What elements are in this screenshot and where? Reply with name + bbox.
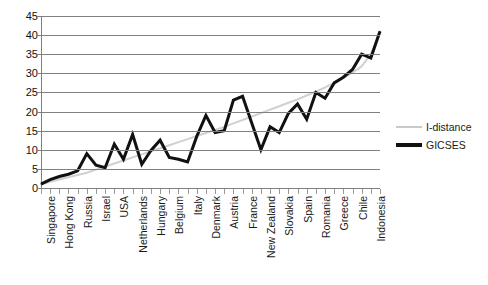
x-axis-tick-mark: [243, 189, 244, 194]
x-axis-tick-mark: [362, 189, 363, 194]
chart-legend: I-distance GICSES: [396, 118, 488, 154]
legend-label-i-distance: I-distance: [426, 121, 472, 133]
x-axis-tick-mark: [178, 189, 179, 194]
y-axis-tick-label: 5: [12, 164, 38, 174]
x-axis-tick-mark: [50, 189, 51, 194]
x-axis-category-label: Denmark: [210, 196, 222, 239]
x-axis-tick-mark: [279, 189, 280, 194]
gridline: [41, 73, 380, 74]
y-axis-tick-label: 40: [12, 30, 38, 40]
x-axis-category-label: Italy: [192, 196, 204, 215]
x-axis-tick-mark: [78, 189, 79, 194]
x-axis-category-label: France: [247, 196, 259, 229]
gridline: [41, 150, 380, 151]
y-axis-tick-mark: [37, 112, 41, 113]
gridline: [41, 92, 380, 93]
y-axis-tick-label: 0: [12, 183, 38, 193]
x-axis-tick-mark: [68, 189, 69, 194]
x-axis-tick-mark: [151, 189, 152, 194]
gridline: [41, 54, 380, 55]
x-axis-tick-mark: [41, 189, 42, 194]
y-axis-tick-label: 10: [12, 145, 38, 155]
y-axis-tick-mark: [37, 16, 41, 17]
x-axis-category-label: Chile: [357, 196, 369, 220]
y-axis-tick-mark: [37, 169, 41, 170]
y-axis-tick-mark: [37, 54, 41, 55]
x-axis-tick-mark: [206, 189, 207, 194]
gridline: [41, 112, 380, 113]
plot-area: [41, 16, 380, 188]
y-axis-tick-label: 30: [12, 68, 38, 78]
x-axis-category-label: Russia: [82, 196, 94, 228]
x-axis-tick-mark: [261, 189, 262, 194]
y-axis-labels: 051015202530354045: [8, 0, 38, 285]
gridline: [41, 35, 380, 36]
gridline: [41, 16, 380, 17]
legend-swatch-i-distance-icon: [396, 126, 422, 128]
x-axis-tick-mark: [353, 189, 354, 194]
x-axis-tick-mark: [215, 189, 216, 194]
x-axis-tick-mark: [123, 189, 124, 194]
x-axis-tick-mark: [380, 189, 381, 194]
y-axis-tick-mark: [37, 35, 41, 36]
x-axis-tick-mark: [87, 189, 88, 194]
x-axis-tick-mark: [298, 189, 299, 194]
series-lines: [41, 16, 380, 188]
x-axis-tick-mark: [96, 189, 97, 194]
x-axis-category-label: Israel: [100, 196, 112, 222]
x-axis-category-label: Indonesia: [375, 196, 387, 242]
x-axis-tick-mark: [334, 189, 335, 194]
gridline: [41, 169, 380, 170]
x-axis-tick-mark: [133, 189, 134, 194]
y-axis-tick-label: 20: [12, 107, 38, 117]
x-axis-category-label: Hungary: [155, 196, 167, 236]
y-axis-tick-label: 35: [12, 49, 38, 59]
y-axis-tick-mark: [37, 92, 41, 93]
x-axis-tick-mark: [371, 189, 372, 194]
x-axis-tick-mark: [169, 189, 170, 194]
x-axis-tick-mark: [343, 189, 344, 194]
x-axis-category-label: Austria: [228, 196, 240, 229]
x-axis-tick-mark: [307, 189, 308, 194]
y-axis-tick-label: 25: [12, 87, 38, 97]
x-axis-category-label: Greece: [338, 196, 350, 230]
y-axis-tick-mark: [37, 150, 41, 151]
chart-title-cropped: [150, 0, 370, 9]
x-axis-line: [41, 188, 380, 189]
x-axis-tick-mark: [197, 189, 198, 194]
x-axis-tick-mark: [59, 189, 60, 194]
x-axis-category-label: Belgium: [173, 196, 185, 234]
x-axis-tick-mark: [288, 189, 289, 194]
y-axis-tick-mark: [37, 188, 41, 189]
y-axis-tick-mark: [37, 73, 41, 74]
x-axis-category-label: New Zealand: [265, 196, 277, 258]
x-axis-tick-mark: [142, 189, 143, 194]
x-axis-tick-mark: [316, 189, 317, 194]
y-axis-tick-mark: [37, 131, 41, 132]
x-axis-category-label: Spain: [302, 196, 314, 223]
y-axis-tick-label: 15: [12, 126, 38, 136]
x-axis-category-label: Netherlands: [137, 196, 149, 253]
x-axis-tick-mark: [114, 189, 115, 194]
x-axis-tick-mark: [224, 189, 225, 194]
x-axis-tick-mark: [105, 189, 106, 194]
x-axis-tick-mark: [270, 189, 271, 194]
x-axis-tick-mark: [325, 189, 326, 194]
legend-item-gicses: GICSES: [396, 136, 488, 154]
x-axis-tick-mark: [252, 189, 253, 194]
legend-swatch-gicses-icon: [396, 143, 422, 147]
x-axis-category-label: Hong Kong: [63, 196, 75, 249]
x-axis-tick-mark: [188, 189, 189, 194]
legend-label-gicses: GICSES: [426, 139, 466, 151]
chart-container: 051015202530354045 SingaporeHong KongRus…: [0, 0, 488, 285]
x-axis-category-label: Singapore: [45, 196, 57, 244]
x-axis-category-label: Romania: [320, 196, 332, 238]
legend-item-i-distance: I-distance: [396, 118, 488, 136]
x-axis-category-label: USA: [118, 196, 130, 218]
gridline: [41, 131, 380, 132]
x-axis-tick-mark: [233, 189, 234, 194]
x-axis-category-label: Slovakia: [283, 196, 295, 236]
y-axis-tick-label: 45: [12, 11, 38, 21]
x-axis-tick-mark: [160, 189, 161, 194]
